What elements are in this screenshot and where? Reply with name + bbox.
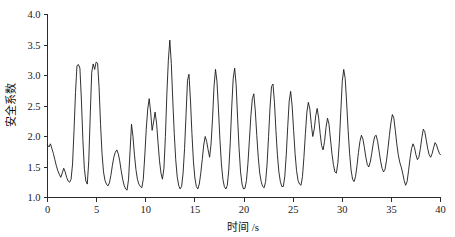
x-tick-label: 20	[239, 204, 250, 215]
x-tick-label: 25	[288, 204, 299, 215]
x-tick-label: 40	[435, 204, 446, 215]
y-axis-title: 安全系数	[4, 83, 17, 127]
y-tick-label: 1.0	[27, 192, 40, 203]
y-tick-label: 2.5	[27, 101, 40, 112]
y-tick-label: 3.5	[27, 40, 40, 51]
x-tick-label: 0	[45, 204, 50, 215]
x-tick-label: 15	[190, 204, 201, 215]
y-tick-label: 3.0	[27, 70, 40, 81]
x-axis-title: 时间 /s	[227, 221, 259, 233]
x-tick-label: 5	[94, 204, 99, 215]
safety-factor-time-series-chart: 1.01.52.02.53.03.54.0 0510152025303540 时…	[0, 0, 455, 237]
y-tick-label: 4.0	[27, 9, 40, 20]
y-tick-label: 2.0	[27, 131, 40, 142]
y-tick-label: 1.5	[27, 162, 40, 173]
x-tick-label: 35	[386, 204, 397, 215]
x-tick-label: 10	[141, 204, 152, 215]
chart-background	[0, 0, 455, 237]
x-tick-label: 30	[337, 204, 348, 215]
chart-figure: 1.01.52.02.53.03.54.0 0510152025303540 时…	[0, 0, 455, 237]
